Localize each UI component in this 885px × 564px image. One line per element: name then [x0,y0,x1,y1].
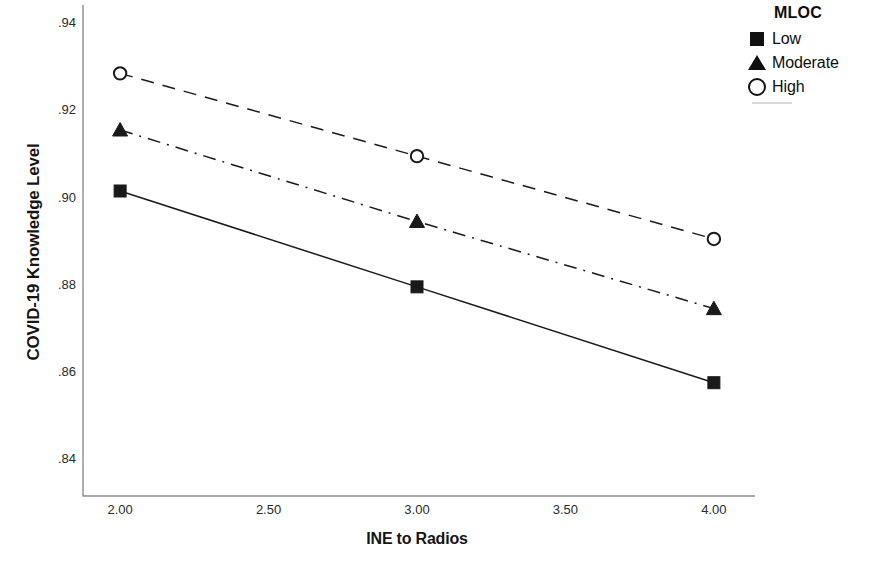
chart-figure: COVID-19 Knowledge Level INE to Radios .… [0,0,885,564]
data-point-low [708,377,720,389]
data-point-moderate [113,123,128,137]
legend-title: MLOC [774,4,885,22]
legend: MLOC Low Moderate High [746,4,885,104]
data-point-low [411,281,423,293]
legend-item-label: Low [772,30,801,48]
legend-item-label: High [772,78,805,96]
axis-spine [83,5,755,496]
legend-item-moderate: Moderate [746,51,885,74]
legend-item-label: Moderate [772,54,839,72]
open-circle-icon [746,76,768,98]
legend-item-low: Low [746,27,885,50]
data-point-moderate [706,301,721,315]
legend-faint-rule [752,102,792,104]
filled-square-icon [746,28,768,50]
data-point-high [708,233,720,245]
data-point-moderate [410,214,425,228]
legend-item-high: High [746,75,885,98]
data-point-low [114,185,126,197]
data-point-high [411,150,423,162]
filled-triangle-icon [746,52,768,74]
data-point-high [114,67,126,79]
